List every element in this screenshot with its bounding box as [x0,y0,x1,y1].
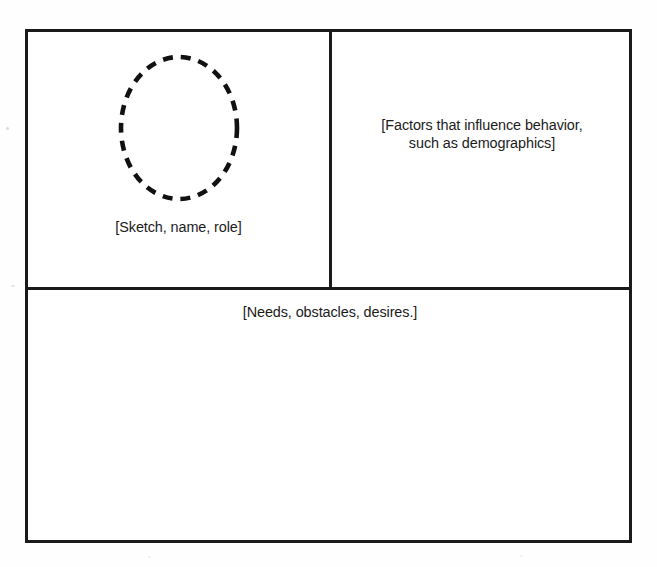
sketch-panel-caption: [Sketch, name, role] [39,218,319,236]
needs-panel: [Needs, obstacles, desires.] [28,287,632,540]
scan-speck [520,555,523,557]
persona-template-frame: [Sketch, name, role] [Factors that influ… [25,29,632,543]
scan-speck [148,556,151,558]
demographics-panel-caption: [Factors that influence behavior, such a… [343,116,622,152]
needs-panel-caption: [Needs, obstacles, desires.] [49,303,611,321]
demographics-panel: [Factors that influence behavior, such a… [329,32,632,287]
scan-speck [6,127,9,130]
scan-speck [11,285,15,287]
dashed-ellipse-portrait-icon [118,54,240,202]
scanned-page-background: [Sketch, name, role] [Factors that influ… [0,0,657,567]
sketch-panel: [Sketch, name, role] [28,32,329,287]
